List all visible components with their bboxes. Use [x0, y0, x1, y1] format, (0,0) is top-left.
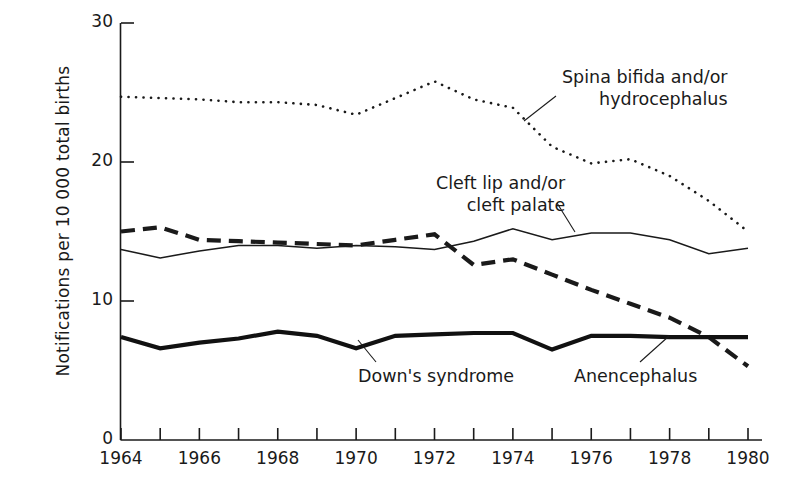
x-tick-label-1974: 1974 — [483, 448, 543, 468]
series-line-3 — [121, 332, 748, 350]
annotation-spina-bifida: Spina bifida and/orhydrocephalus — [562, 66, 728, 111]
leader-line-anencephalus — [640, 336, 669, 362]
annotation-cleft-lip-line1: Cleft lip and/or — [436, 172, 565, 194]
x-tick-label-1964: 1964 — [91, 448, 151, 468]
x-tick-label-1968: 1968 — [248, 448, 308, 468]
x-tick-label-1980: 1980 — [718, 448, 778, 468]
x-tick-label-1976: 1976 — [561, 448, 621, 468]
annotation-cleft-lip-line2: cleft palate — [436, 194, 565, 216]
y-tick-label-20: 20 — [73, 150, 113, 170]
annotation-anencephalus: Anencephalus — [574, 365, 697, 387]
x-tick-label-1972: 1972 — [405, 448, 465, 468]
x-tick-label-1970: 1970 — [326, 448, 386, 468]
annotation-spina-bifida-line2: hydrocephalus — [562, 88, 728, 110]
chart-container: Notifications per 10 000 total births 19… — [0, 0, 789, 482]
leader-line-spina-bifida — [524, 96, 556, 121]
y-tick-label-30: 30 — [73, 11, 113, 31]
annotation-cleft-lip: Cleft lip and/orcleft palate — [436, 172, 565, 217]
y-axis-title: Notifications per 10 000 total births — [53, 46, 73, 396]
annotation-spina-bifida-line1: Spina bifida and/or — [562, 66, 728, 88]
annotation-anencephalus-line1: Anencephalus — [574, 365, 697, 387]
x-tick-label-1966: 1966 — [169, 448, 229, 468]
annotation-downs-syndrome-line1: Down's syndrome — [358, 365, 514, 387]
data-series — [121, 81, 748, 366]
x-tick-label-1978: 1978 — [640, 448, 700, 468]
annotation-downs-syndrome: Down's syndrome — [358, 365, 514, 387]
y-tick-label-10: 10 — [73, 289, 113, 309]
y-tick-label-0: 0 — [73, 428, 113, 448]
